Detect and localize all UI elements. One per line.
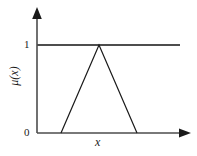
x-axis-label: x bbox=[95, 136, 100, 148]
y-axis-arrowhead-icon bbox=[32, 7, 42, 19]
figure-container: 1 0 x μ(x) bbox=[0, 0, 197, 156]
triangular-membership-curve bbox=[61, 45, 137, 133]
y-axis-tick-label-1: 1 bbox=[24, 39, 30, 50]
y-axis-tick-label-0: 0 bbox=[24, 127, 30, 138]
y-axis bbox=[32, 7, 42, 133]
y-axis-label: μ(x) bbox=[8, 54, 20, 98]
x-axis-arrowhead-icon bbox=[179, 128, 191, 137]
x-axis bbox=[37, 128, 191, 137]
